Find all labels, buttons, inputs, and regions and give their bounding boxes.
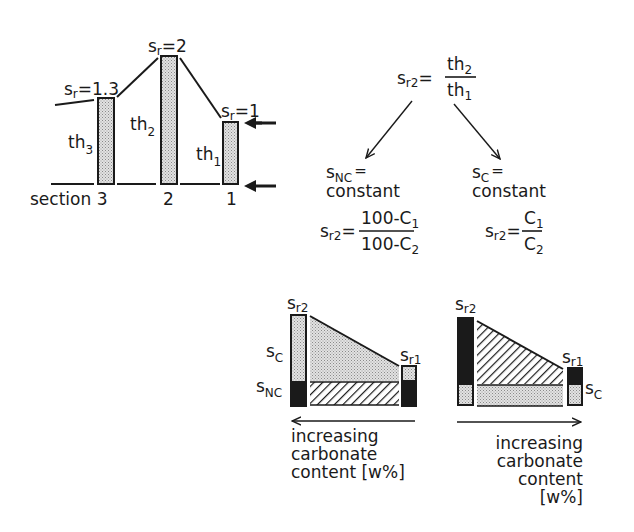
diagram-canvas: sr=1.3 sr=2 sr=1 th3 th2 th1 section 3 2… bbox=[0, 0, 634, 532]
thickness-label-3: th3 bbox=[68, 132, 93, 157]
label-sr1: sr1 bbox=[400, 345, 421, 367]
bottom-marker-arrow-icon bbox=[244, 180, 276, 192]
bar-sr1-carbonate bbox=[568, 384, 582, 405]
bottom-left-diagram: sr2 sr1 sC sNC increasing carbonate cont… bbox=[256, 293, 421, 482]
right-formula-lhs: sr2= bbox=[485, 221, 521, 243]
right-formula-numerator: C1 bbox=[524, 208, 544, 231]
section-label-3: section 3 bbox=[30, 189, 107, 209]
carbonate-wedge bbox=[310, 316, 399, 381]
correlation-line bbox=[180, 58, 221, 118]
section-label-2: 2 bbox=[163, 189, 174, 209]
carbonate-band bbox=[477, 385, 563, 406]
right-formula-denominator: C2 bbox=[524, 234, 544, 257]
right-branch-arrow-icon bbox=[454, 104, 500, 159]
bar-sr2-noncarbonate bbox=[291, 382, 306, 406]
thickness-label-1: th1 bbox=[196, 144, 221, 169]
bar-sr2-noncarbonate bbox=[458, 318, 473, 384]
label-sr2: sr2 bbox=[455, 294, 476, 316]
root-formula-numerator: th2 bbox=[447, 54, 472, 77]
left-formula-numerator: 100-C1 bbox=[361, 208, 419, 231]
non-carbonate-band bbox=[310, 382, 399, 405]
bottom-right-diagram: sr2 sr1 sC increasing carbonate content … bbox=[455, 294, 602, 507]
formula-tree: sr2= th2 th1 sNC= constant sr2= 100-C1 1… bbox=[320, 54, 546, 257]
sr-label-section-2: sr=2 bbox=[148, 36, 187, 58]
correlation-line bbox=[117, 58, 158, 97]
left-formula-denominator: 100-C2 bbox=[361, 234, 419, 257]
caption-line-1: increasing bbox=[291, 426, 378, 446]
noncarbonate-wedge bbox=[477, 321, 563, 384]
label-sc: sC bbox=[266, 341, 283, 365]
right-condition-text: constant bbox=[472, 181, 546, 201]
caption-line-3: content bbox=[518, 469, 583, 489]
thickness-label-2: th2 bbox=[130, 114, 155, 139]
bar-sr1-carbonate bbox=[402, 366, 416, 381]
root-formula-lhs: sr2= bbox=[397, 68, 433, 90]
section-diagram: sr=1.3 sr=2 sr=1 th3 th2 th1 section 3 2… bbox=[30, 36, 276, 209]
bar-sr2-carbonate bbox=[458, 384, 473, 405]
label-sc: sC bbox=[585, 378, 602, 402]
caption-line-1: increasing bbox=[496, 433, 583, 453]
caption-line-2: carbonate bbox=[497, 451, 583, 471]
sr-label-section-1: sr=1 bbox=[221, 101, 260, 123]
label-sr2: sr2 bbox=[287, 293, 308, 315]
left-condition-text: constant bbox=[326, 181, 400, 201]
section-2-bar bbox=[161, 56, 177, 184]
sr-label-section-3: sr=1.3 bbox=[64, 79, 119, 101]
bar-sr2-carbonate bbox=[291, 315, 306, 382]
section-3-bar bbox=[98, 98, 114, 184]
caption-line-4: [w%] bbox=[540, 487, 583, 507]
left-formula-lhs: sr2= bbox=[320, 221, 356, 243]
bar-sr1-noncarbonate bbox=[402, 381, 416, 406]
label-sr1: sr1 bbox=[562, 347, 583, 369]
caption-line-3: content [w%] bbox=[291, 462, 405, 482]
bar-sr1-noncarbonate bbox=[568, 368, 582, 384]
section-1-bar bbox=[223, 122, 238, 184]
left-branch-arrow-icon bbox=[366, 101, 412, 158]
section-label-1: 1 bbox=[226, 189, 237, 209]
root-formula-denominator: th1 bbox=[447, 80, 472, 103]
label-snc: sNC bbox=[256, 376, 282, 400]
caption-line-2: carbonate bbox=[291, 444, 377, 464]
